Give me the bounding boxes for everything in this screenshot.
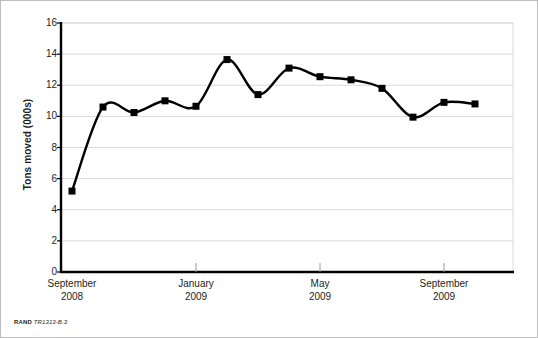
data-point-marker [348, 76, 355, 83]
y-tick-label: 6 [33, 174, 57, 184]
x-tick-month: May [260, 277, 380, 290]
y-tick-label: 8 [33, 143, 57, 153]
data-point-marker [131, 109, 138, 116]
figure-credit: RAND TR1313-B.3 [14, 318, 67, 326]
data-point-marker [286, 65, 293, 72]
x-tick-label: September2009 [384, 277, 504, 303]
y-tick-label: 10 [33, 111, 57, 121]
x-tick-year: 2008 [12, 290, 132, 303]
data-point-marker [379, 85, 386, 92]
x-tick-year: 2009 [136, 290, 256, 303]
data-point-marker [69, 188, 76, 195]
x-tick-label: January2009 [136, 277, 256, 303]
data-point-marker [193, 103, 200, 110]
data-point-marker [162, 97, 169, 104]
x-tick-label: May2009 [260, 277, 380, 303]
x-tick-label: September2008 [12, 277, 132, 303]
data-point-marker [100, 104, 107, 111]
y-tick-label: 2 [33, 236, 57, 246]
x-tick-month: September [12, 277, 132, 290]
x-tick-month: January [136, 277, 256, 290]
y-tick-label: 4 [33, 205, 57, 215]
figure-container: Tons moved (000s) 1614121086420 Septembe… [0, 0, 538, 338]
data-point-marker [255, 91, 262, 98]
y-tick-label: 12 [33, 80, 57, 90]
data-point-marker [410, 114, 417, 121]
y-tick-label: 14 [33, 49, 57, 59]
series-line [72, 59, 475, 191]
y-tick-label: 0 [33, 267, 57, 277]
figure-id-label: TR1313-B.3 [34, 319, 67, 325]
x-axis-tick-labels: September2008January2009May2009September… [1, 277, 538, 317]
rand-wordmark: RAND [14, 319, 32, 325]
x-tick-year: 2009 [260, 290, 380, 303]
y-tick-label: 16 [33, 18, 57, 28]
x-tick-month: September [384, 277, 504, 290]
data-point-marker [317, 73, 324, 80]
data-point-marker [224, 56, 231, 63]
data-point-marker [441, 99, 448, 106]
data-point-marker [472, 100, 479, 107]
x-tick-year: 2009 [384, 290, 504, 303]
